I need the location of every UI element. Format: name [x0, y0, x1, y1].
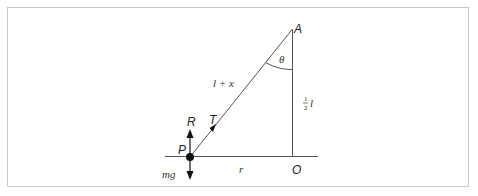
- label-hypotenuse: l + x: [213, 77, 234, 89]
- reaction-arrowhead-icon: [187, 129, 194, 138]
- label-theta: θ: [279, 53, 285, 65]
- fraction-numerator: 1: [304, 95, 308, 103]
- force-diagram: A O P R T θ l + x r mg 1 2 l: [0, 0, 478, 196]
- label-r: r: [239, 163, 244, 175]
- label-O: O: [292, 163, 301, 177]
- particle-P: [186, 153, 194, 161]
- label-half-l: 1 2 l: [303, 95, 313, 112]
- label-R: R: [187, 115, 196, 129]
- label-mg: mg: [162, 168, 176, 180]
- label-T: T: [209, 113, 218, 127]
- weight-arrowhead-icon: [187, 171, 194, 180]
- fraction-variable: l: [310, 97, 313, 109]
- label-A: A: [293, 22, 302, 36]
- label-P: P: [178, 143, 186, 157]
- string-line-AP: [190, 29, 293, 157]
- fraction-denominator: 2: [304, 104, 308, 112]
